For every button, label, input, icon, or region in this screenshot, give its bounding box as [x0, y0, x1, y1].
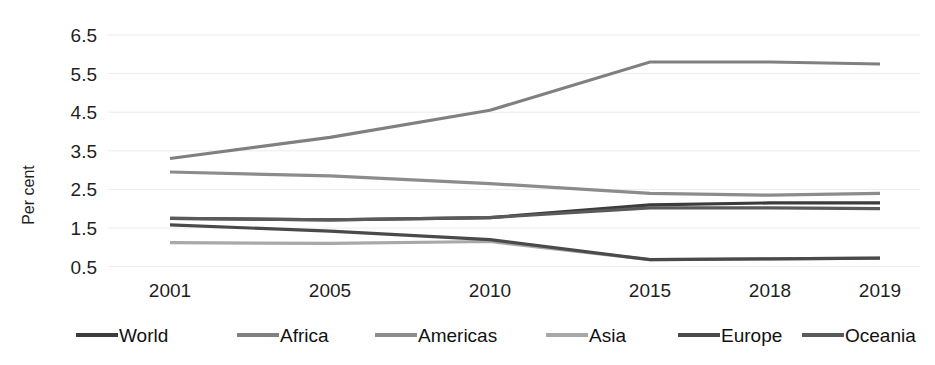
series-line-americas	[170, 172, 880, 195]
x-tick-label: 2005	[309, 280, 351, 301]
series-lines	[170, 62, 880, 260]
chart-canvas: 0.51.52.53.54.55.56.5 Per cent 200120052…	[0, 0, 935, 365]
legend-label-oceania[interactable]: Oceania	[845, 325, 916, 346]
y-tick-label: 0.5	[71, 257, 97, 278]
legend-label-americas[interactable]: Americas	[418, 325, 497, 346]
legend-label-africa[interactable]: Africa	[280, 325, 329, 346]
series-line-africa	[170, 62, 880, 159]
x-axis-tick-labels: 200120052010201520182019	[149, 280, 901, 301]
y-tick-label: 5.5	[71, 64, 97, 85]
y-axis-title: Per cent	[20, 165, 37, 225]
chart-legend: WorldAfricaAmericasAsiaEuropeOceania	[76, 325, 916, 346]
x-tick-label: 2018	[749, 280, 791, 301]
legend-label-world[interactable]: World	[119, 325, 168, 346]
line-chart: 0.51.52.53.54.55.56.5 Per cent 200120052…	[0, 0, 935, 365]
x-tick-label: 2010	[469, 280, 511, 301]
y-axis-tick-labels: 0.51.52.53.54.55.56.5	[71, 25, 97, 278]
y-tick-label: 1.5	[71, 218, 97, 239]
legend-label-europe[interactable]: Europe	[721, 325, 782, 346]
series-line-world	[170, 203, 880, 220]
y-tick-label: 4.5	[71, 102, 97, 123]
y-tick-label: 6.5	[71, 25, 97, 46]
legend-label-asia[interactable]: Asia	[589, 325, 626, 346]
y-tick-label: 2.5	[71, 179, 97, 200]
x-tick-label: 2019	[859, 280, 901, 301]
y-tick-label: 3.5	[71, 141, 97, 162]
x-tick-label: 2015	[629, 280, 671, 301]
series-line-oceania	[170, 208, 880, 220]
x-tick-label: 2001	[149, 280, 191, 301]
